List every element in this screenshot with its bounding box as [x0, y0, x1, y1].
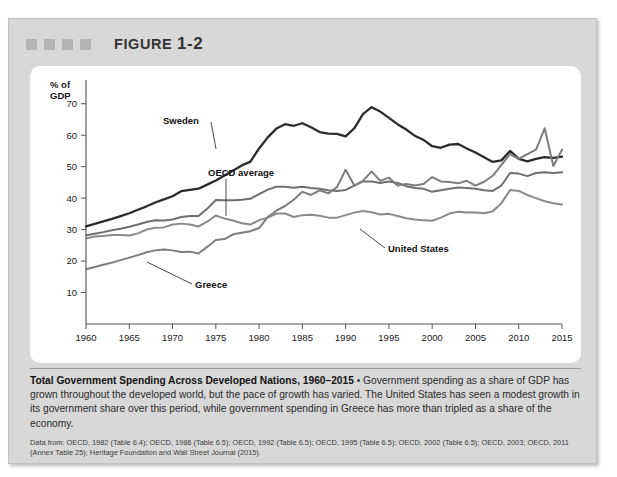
x-tick-label: 2010 [508, 332, 529, 343]
x-tick-label: 1960 [75, 332, 96, 343]
series-annotation-united-states: United States [388, 243, 449, 254]
y-tick-label: 10 [66, 287, 77, 298]
y-tick-label: 20 [66, 255, 77, 266]
x-tick-label: 2000 [422, 332, 443, 343]
x-tick-label: 1995 [378, 332, 399, 343]
x-tick-label: 1980 [249, 332, 270, 343]
y-tick-label: 50 [66, 161, 77, 172]
series-line-united-states [86, 190, 562, 238]
figure-panel: FIGURE 1-2 % of GDP 10203040506070196019… [8, 18, 597, 464]
caption-divider [30, 368, 581, 369]
series-annotation-greece: Greece [195, 279, 227, 290]
series-line-oecd-average [86, 172, 562, 235]
figure-number: 1-2 [177, 34, 203, 53]
x-tick-label: 1985 [292, 332, 313, 343]
y-tick-label: 30 [66, 224, 77, 235]
series-annotation-sweden: Sweden [163, 115, 199, 126]
x-tick-label: 2005 [465, 332, 486, 343]
decor-square-icon [26, 39, 37, 50]
annotation-leader-line [147, 262, 192, 284]
line-chart: 1020304050607019601965197019751980198519… [30, 66, 581, 363]
caption-title: Total Government Spending Across Develop… [30, 375, 354, 386]
figure-caption: Total Government Spending Across Develop… [30, 374, 581, 431]
series-line-greece [86, 128, 562, 269]
x-tick-label: 1970 [162, 332, 183, 343]
x-tick-label: 1975 [205, 332, 226, 343]
figure-label-prefix: FIGURE [114, 36, 172, 52]
figure-source: Data from: OECD, 1982 (Table 6.4); OECD,… [30, 438, 581, 459]
y-tick-label: 70 [66, 98, 77, 109]
y-tick-label: 40 [66, 193, 77, 204]
series-line-sweden [86, 107, 562, 226]
x-tick-label: 1965 [119, 332, 140, 343]
annotation-leader-line [211, 122, 216, 149]
figure-page: FIGURE 1-2 % of GDP 10203040506070196019… [0, 0, 617, 477]
x-tick-label: 2015 [551, 332, 572, 343]
figure-label: FIGURE 1-2 [114, 34, 203, 54]
decor-square-icon [80, 39, 91, 50]
x-tick-label: 1990 [335, 332, 356, 343]
caption-separator: • [357, 375, 361, 386]
plot-card: % of GDP 1020304050607019601965197019751… [30, 66, 581, 363]
decor-square-icon [62, 39, 73, 50]
decor-square-icon [44, 39, 55, 50]
series-annotation-oecd-average: OECD average [208, 167, 274, 178]
annotation-leader-line [360, 229, 385, 248]
y-tick-label: 60 [66, 130, 77, 141]
figure-header: FIGURE 1-2 [26, 34, 203, 54]
